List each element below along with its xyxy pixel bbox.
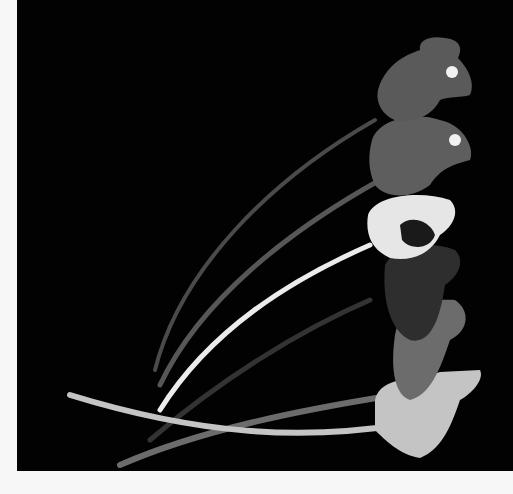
mouse-2-body: [369, 117, 471, 196]
mice-illustration: [0, 0, 513, 494]
tail-1: [155, 120, 375, 370]
mouse-tails: [70, 120, 400, 465]
mouse-2-eye: [449, 134, 461, 146]
mouse-1-eye: [446, 66, 458, 78]
tail-3: [160, 245, 370, 410]
mouse-1-body: [377, 37, 471, 122]
